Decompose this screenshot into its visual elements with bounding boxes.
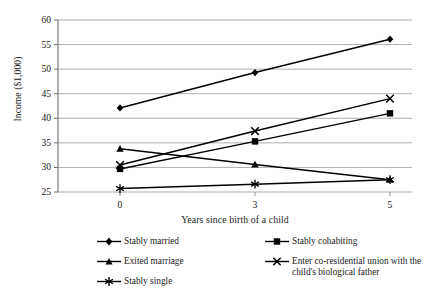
legend-label: Stably married bbox=[124, 236, 179, 247]
star-marker-icon bbox=[96, 276, 122, 287]
legend-label: Enter co-residential union with the chil… bbox=[292, 256, 424, 278]
data-point-diamond bbox=[117, 104, 124, 111]
legend-label: Stably cohabiting bbox=[292, 236, 357, 247]
line-chart: Income ($1,000) Years since birth of a c… bbox=[0, 0, 432, 298]
legend-item-stably-cohabiting[interactable]: Stably cohabiting bbox=[264, 236, 357, 247]
legend-item-stably-single[interactable]: Stably single bbox=[96, 276, 172, 287]
diamond-marker-icon bbox=[96, 236, 122, 247]
chart-legend: Stably married Stably cohabiting Exited … bbox=[96, 236, 426, 294]
legend-label: Stably single bbox=[124, 276, 172, 287]
data-point-square bbox=[387, 110, 393, 116]
square-marker-icon bbox=[264, 236, 290, 247]
legend-item-exited-marriage[interactable]: Exited marriage bbox=[96, 256, 184, 267]
cross-marker-icon bbox=[264, 256, 290, 267]
legend-item-enter-coresidential-union[interactable]: Enter co-residential union with the chil… bbox=[264, 256, 424, 278]
legend-item-stably-married[interactable]: Stably married bbox=[96, 236, 179, 247]
legend-label: Exited marriage bbox=[124, 256, 184, 267]
data-point-square bbox=[252, 138, 258, 144]
triangle-marker-icon bbox=[96, 256, 122, 267]
data-point-diamond bbox=[252, 69, 259, 76]
data-point-diamond bbox=[387, 36, 394, 43]
